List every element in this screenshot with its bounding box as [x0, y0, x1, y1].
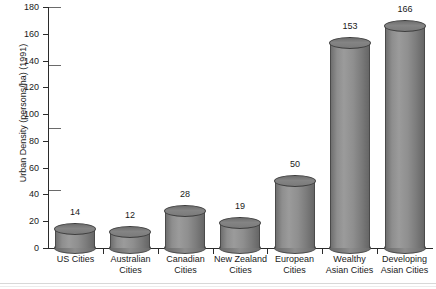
- bar-value-label: 28: [151, 189, 219, 199]
- y-tick-label-100: 100: [0, 109, 39, 119]
- category-label-line: European: [267, 254, 322, 265]
- cylinder: 50: [275, 181, 315, 248]
- y-tick-180: [43, 7, 48, 8]
- scan-artifact-line-secondary: [0, 286, 436, 287]
- y-tick-label-140: 140: [0, 56, 39, 66]
- y-tick-120: [43, 87, 48, 88]
- category-label-developing-asian-cities: DevelopingAsian Cities: [377, 254, 432, 275]
- bar-value-label: 12: [96, 210, 164, 220]
- category-label-line: Cities: [158, 265, 213, 276]
- y-tick-label-80: 80: [0, 136, 39, 146]
- y-tick-label-20: 20: [0, 216, 39, 226]
- scan-artifact-line: [0, 283, 436, 284]
- category-label-canadian-cities: CanadianCities: [158, 254, 213, 275]
- cylinder-body: [330, 43, 370, 248]
- cylinder-top-ellipse: [164, 205, 206, 217]
- bar-value-label: 166: [371, 4, 436, 14]
- bar-us-cities: 14: [55, 7, 95, 248]
- y-tick-80: [43, 141, 48, 142]
- category-label-line: Cities: [213, 265, 268, 276]
- y-tick-160: [43, 34, 48, 35]
- cylinder-top-ellipse: [109, 226, 151, 238]
- category-label-australian-cities: AustralianCities: [103, 254, 158, 275]
- cylinder-body: [385, 26, 425, 248]
- cylinder: 153: [330, 43, 370, 248]
- y-tick-0: [43, 248, 48, 249]
- urban-density-bar-chart: Urban Density (persons/ha) (1991) 020406…: [0, 0, 436, 289]
- y-tick-label-160: 160: [0, 29, 39, 39]
- category-label-line: Cities: [103, 265, 158, 276]
- cylinder-top-ellipse: [219, 217, 261, 229]
- cylinder-top-ellipse: [274, 175, 316, 187]
- bar-new-zealand-cities: 19: [220, 7, 260, 248]
- bar-canadian-cities: 28: [165, 7, 205, 248]
- bar-developing-asian-cities: 166: [385, 7, 425, 248]
- bar-value-label: 19: [206, 201, 274, 211]
- bar-european-cities: 50: [275, 7, 315, 248]
- y-tick-label-40: 40: [0, 189, 39, 199]
- y-tick-60: [43, 168, 48, 169]
- cylinder: 28: [165, 211, 205, 248]
- cylinder: 19: [220, 223, 260, 248]
- cylinder: 166: [385, 26, 425, 248]
- category-label-wealthy-asian-cities: WealthyAsian Cities: [322, 254, 377, 275]
- cylinder: 14: [55, 229, 95, 248]
- category-label-line: New Zealand: [213, 254, 268, 265]
- cylinder: 12: [110, 232, 150, 248]
- cylinder-body: [275, 181, 315, 248]
- y-tick-20: [43, 221, 48, 222]
- category-label-line: Canadian: [158, 254, 213, 265]
- category-label-us-cities: US Cities: [48, 254, 103, 265]
- category-label-line: Australian: [103, 254, 158, 265]
- category-label-new-zealand-cities: New ZealandCities: [213, 254, 268, 275]
- category-label-line: Developing: [377, 254, 432, 265]
- y-tick-100: [43, 114, 48, 115]
- cylinder-top-ellipse: [384, 20, 426, 32]
- category-label-line: Cities: [267, 265, 322, 276]
- category-label-line: Asian Cities: [322, 265, 377, 276]
- bar-value-label: 50: [261, 159, 329, 169]
- category-label-line: Wealthy: [322, 254, 377, 265]
- y-tick-40: [43, 194, 48, 195]
- bar-wealthy-asian-cities: 153: [330, 7, 370, 248]
- category-label-line: US Cities: [48, 254, 103, 265]
- bar-value-label: 153: [316, 21, 384, 31]
- y-tick-label-180: 180: [0, 2, 39, 12]
- y-tick-140: [43, 61, 48, 62]
- bar-australian-cities: 12: [110, 7, 150, 248]
- y-tick-label-60: 60: [0, 163, 39, 173]
- category-label-european-cities: EuropeanCities: [267, 254, 322, 275]
- y-tick-label-0: 0: [0, 243, 39, 253]
- y-tick-label-120: 120: [0, 82, 39, 92]
- category-label-line: Asian Cities: [377, 265, 432, 276]
